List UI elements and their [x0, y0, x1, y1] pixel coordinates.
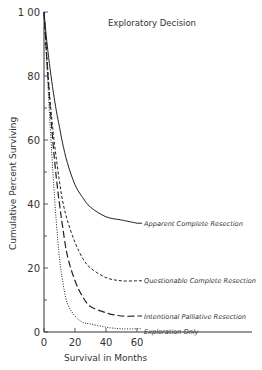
- curve-exploration-only: [44, 12, 142, 329]
- y-tick-label: 80: [27, 71, 40, 82]
- x-tick-label: 0: [41, 337, 47, 348]
- x-tick-label: 40: [100, 337, 113, 348]
- chart-title: Exploratory Decision: [108, 18, 196, 28]
- curve-labels: Apparent Complete ResectionQuestionable …: [143, 220, 256, 337]
- x-axis-label: Survival in Months: [64, 353, 147, 363]
- curve-label: Apparent Complete Resection: [143, 220, 243, 228]
- curve-intentional-palliative-resection: [44, 12, 142, 316]
- y-tick-label: 60: [27, 135, 40, 146]
- x-tick-label: 60: [131, 337, 144, 348]
- curve-label: Questionable Complete Resection: [144, 277, 256, 285]
- survival-chart: Exploratory Decision 0204060801 00 02040…: [0, 0, 262, 370]
- survival-curves: [44, 12, 142, 329]
- y-tick-label: 1 00: [18, 7, 40, 18]
- x-tick-label: 20: [69, 337, 82, 348]
- y-tick-label: 0: [34, 327, 40, 338]
- y-axis-label: Cumulative Percent Surviving: [8, 117, 18, 250]
- curve-label: Intentional Palliative Resection: [144, 313, 246, 321]
- curve-apparent-complete-resection: [44, 12, 142, 223]
- curve-questionable-complete-resection: [44, 12, 142, 281]
- y-tick-label: 20: [27, 263, 40, 274]
- y-tick-label: 40: [27, 199, 40, 210]
- curve-label: Exploration Only: [144, 328, 199, 336]
- y-axis: 0204060801 00: [18, 7, 48, 338]
